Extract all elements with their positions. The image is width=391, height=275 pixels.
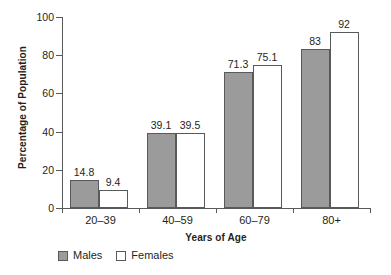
legend-item-males: Males xyxy=(58,250,102,261)
bar-value-label: 75.1 xyxy=(250,52,285,63)
x-axis-tick xyxy=(139,208,140,213)
x-axis-tick xyxy=(370,208,371,213)
bar-females-40–59 xyxy=(176,133,205,208)
x-axis-category-label: 20–39 xyxy=(62,214,139,226)
x-axis-category-label: 40–59 xyxy=(139,214,216,226)
bar-chart: Percentage of Population 020406080100 14… xyxy=(0,0,391,275)
bar-males-80+ xyxy=(301,49,330,208)
plot-area: 14.89.439.139.571.375.18392 xyxy=(62,17,370,208)
legend-swatch-icon xyxy=(116,251,126,261)
y-axis-tick-label: 20 xyxy=(2,165,54,175)
chart-legend: MalesFemales xyxy=(58,250,174,261)
bar-value-label: 9.4 xyxy=(96,177,131,188)
x-axis-tick xyxy=(293,208,294,213)
bar-value-label: 83 xyxy=(298,36,333,47)
y-axis-title: Percentage of Population xyxy=(17,8,28,208)
legend-label: Females xyxy=(131,250,173,261)
y-axis-tick-label: 100 xyxy=(2,12,54,22)
legend-label: Males xyxy=(73,250,102,261)
y-axis-tick-label: 0 xyxy=(2,203,54,213)
y-axis-tick-label: 80 xyxy=(2,50,54,60)
legend-item-females: Females xyxy=(116,250,173,261)
bar-females-60–79 xyxy=(253,65,282,208)
x-axis-category-label: 80+ xyxy=(293,214,370,226)
bar-females-80+ xyxy=(330,32,359,208)
legend-swatch-icon xyxy=(58,251,68,261)
bar-value-label: 92 xyxy=(327,19,362,30)
x-axis-tick xyxy=(62,208,63,213)
bar-males-20–39 xyxy=(70,180,99,208)
y-axis-tick-label: 60 xyxy=(2,88,54,98)
bar-males-60–79 xyxy=(224,72,253,208)
x-axis-tick xyxy=(216,208,217,213)
bar-males-40–59 xyxy=(147,133,176,208)
x-axis-title: Years of Age xyxy=(62,232,370,243)
bar-females-20–39 xyxy=(99,190,128,208)
bar-value-label: 39.5 xyxy=(173,120,208,131)
y-axis-tick-label: 40 xyxy=(2,127,54,137)
x-axis-category-label: 60–79 xyxy=(216,214,293,226)
